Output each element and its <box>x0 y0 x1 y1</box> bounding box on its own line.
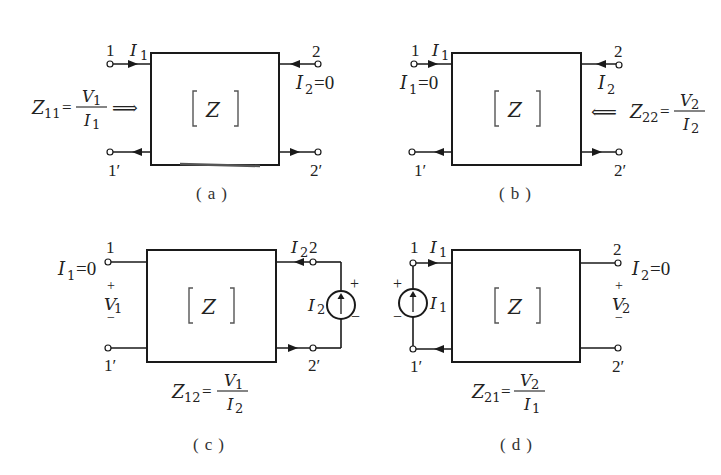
condition-sub: 1 <box>409 82 417 97</box>
formula-lhs: Z <box>471 381 485 402</box>
two-port-z-parameter-figure: 1 I 1 1′ 2 2′ I 2 =0 Z 11 = V 1 I 1 ⟹ Z … <box>0 0 721 475</box>
formula-lhs-sub: 11 <box>44 106 61 121</box>
formula-num-sub: 2 <box>691 97 699 112</box>
equals-sign: = <box>62 98 72 117</box>
arrow-left-icon <box>434 148 444 156</box>
formula-den-sub: 1 <box>92 117 100 132</box>
equals-sign: = <box>501 382 511 401</box>
terminal-label-2: 2 <box>312 42 321 61</box>
terminal-1 <box>105 259 111 265</box>
terminal-2p <box>616 149 622 155</box>
arrow-right-icon <box>592 148 602 156</box>
terminal-1 <box>107 61 113 67</box>
terminal-label-1: 1 <box>410 238 419 257</box>
condition-var: I <box>295 72 304 93</box>
formula-den: I <box>523 395 531 414</box>
source-plus: + <box>350 275 359 292</box>
voltage-plus: + <box>615 278 623 293</box>
terminal-1p <box>409 149 415 155</box>
voltage-minus: − <box>107 310 115 325</box>
caption-b: (b) <box>499 184 537 203</box>
condition-var: I <box>57 258 66 279</box>
caption-a: (a) <box>196 184 233 203</box>
terminal-label-2: 2 <box>613 240 622 259</box>
voltage-sub: 1 <box>114 301 122 316</box>
arrow-right-icon <box>428 259 438 267</box>
panel-b: 1 I 1 I 1 =0 1′ 2 2′ I 2 ⟸ Z 22 = V 2 I … <box>399 40 705 203</box>
terminal-label-1: 1 <box>106 238 115 257</box>
formula-num-sub: 1 <box>235 377 243 392</box>
z-matrix-label: Z <box>201 295 217 319</box>
source-label: I <box>307 295 315 315</box>
source-plus: + <box>393 275 402 292</box>
terminal-1 <box>410 260 416 266</box>
condition-sub: 2 <box>641 268 649 283</box>
current-label: I <box>431 40 439 60</box>
condition-sub: 1 <box>67 268 75 283</box>
source-label: I <box>429 293 437 313</box>
formula-den-sub: 1 <box>532 401 540 416</box>
terminal-label-2p: 2′ <box>310 161 322 180</box>
terminal-label-2: 2 <box>309 238 318 257</box>
implied-by-arrow-icon: ⟸ <box>591 102 617 122</box>
formula-den-sub: 2 <box>235 401 243 416</box>
implies-arrow-icon: ⟹ <box>112 98 138 118</box>
arrow-left-icon <box>434 345 444 353</box>
current-sub: 2 <box>300 245 308 260</box>
z-matrix-label: Z <box>507 295 523 319</box>
panel-a: 1 I 1 1′ 2 2′ I 2 =0 Z 11 = V 1 I 1 ⟹ Z … <box>31 40 334 203</box>
terminal-2p <box>615 345 621 351</box>
terminal-2 <box>616 62 622 68</box>
source-minus: − <box>351 308 360 325</box>
arrow-right-icon <box>128 60 138 68</box>
current-sub: 1 <box>140 48 148 63</box>
equals-sign: = <box>202 382 212 401</box>
condition-eq: =0 <box>76 258 96 279</box>
terminal-1p <box>107 149 113 155</box>
voltage-minus: − <box>615 310 623 325</box>
equals-sign: = <box>660 102 670 121</box>
terminal-1p <box>105 345 111 351</box>
formula-den: I <box>83 111 91 130</box>
arrow-left-icon <box>132 148 142 156</box>
current-label: I <box>429 237 437 257</box>
formula-num-sub: 2 <box>531 377 539 392</box>
source-sub: 1 <box>439 300 447 315</box>
voltage-sub: 2 <box>622 301 630 316</box>
terminal-label-2p: 2′ <box>614 161 626 180</box>
current-sub: 1 <box>439 245 447 260</box>
terminal-label-2p: 2′ <box>612 357 624 376</box>
condition-sub: 2 <box>305 82 313 97</box>
current-label: I <box>129 40 137 60</box>
terminal-2p <box>310 345 316 351</box>
formula-lhs-sub: 21 <box>484 390 501 405</box>
formula-den: I <box>682 115 690 134</box>
z-matrix-label: Z <box>205 98 221 122</box>
formula-lhs-sub: 12 <box>184 390 201 405</box>
formula-lhs-sub: 22 <box>642 110 659 125</box>
terminal-label-2: 2 <box>614 42 623 61</box>
current-sub: 1 <box>441 48 449 63</box>
caption-d: (d) <box>500 435 538 454</box>
current2-label: I <box>597 72 606 93</box>
z-matrix-label: Z <box>507 98 523 122</box>
source-minus: − <box>393 308 402 325</box>
caption-c: (c) <box>193 435 230 454</box>
terminal-2p <box>315 149 321 155</box>
arrow-right-icon <box>428 60 438 68</box>
terminal-1 <box>411 61 417 67</box>
formula-lhs: Z <box>629 101 643 122</box>
terminal-2 <box>615 260 621 266</box>
formula-den-sub: 2 <box>691 121 699 136</box>
voltage-plus: + <box>107 278 115 293</box>
terminal-label-1p: 1′ <box>108 161 120 180</box>
arrow-left-icon <box>290 60 300 68</box>
condition-eq: =0 <box>314 72 334 93</box>
terminal-2 <box>310 259 316 265</box>
arrow-right-icon <box>290 148 300 156</box>
terminal-label-1p: 1′ <box>410 357 422 376</box>
terminal-label-1p: 1′ <box>104 356 116 375</box>
terminal-label-1p: 1′ <box>414 161 426 180</box>
formula-den: I <box>226 395 234 414</box>
current-label: I <box>290 237 298 257</box>
